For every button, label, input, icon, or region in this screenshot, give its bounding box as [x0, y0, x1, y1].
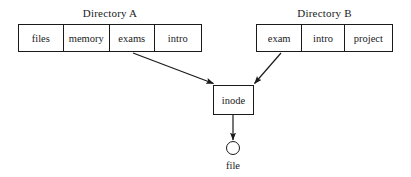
- arrow-dirA-exams-to-inode: [133, 53, 214, 84]
- file-circle-icon[interactable]: [226, 141, 240, 155]
- directory-b-entry-intro[interactable]: intro: [302, 25, 344, 51]
- directory-a-entry-memory[interactable]: memory: [64, 25, 110, 51]
- directory-a-entry-intro[interactable]: intro: [155, 25, 201, 51]
- directory-a-label: Directory A: [18, 7, 202, 19]
- directory-a-table: files memory exams intro: [18, 24, 202, 52]
- file-label: file: [203, 160, 263, 171]
- directory-b-entry-project[interactable]: project: [345, 25, 392, 51]
- directory-b-label: Directory B: [256, 7, 393, 19]
- diagram-canvas: Directory A files memory exams intro Dir…: [0, 0, 411, 177]
- arrow-dirB-exam-to-inode: [255, 53, 282, 84]
- directory-a-entry-files[interactable]: files: [19, 25, 64, 51]
- inode-box[interactable]: inode: [213, 85, 254, 115]
- directory-b-entry-exam[interactable]: exam: [257, 25, 302, 51]
- directory-a-entry-exams[interactable]: exams: [110, 25, 155, 51]
- directory-b-table: exam intro project: [256, 24, 393, 52]
